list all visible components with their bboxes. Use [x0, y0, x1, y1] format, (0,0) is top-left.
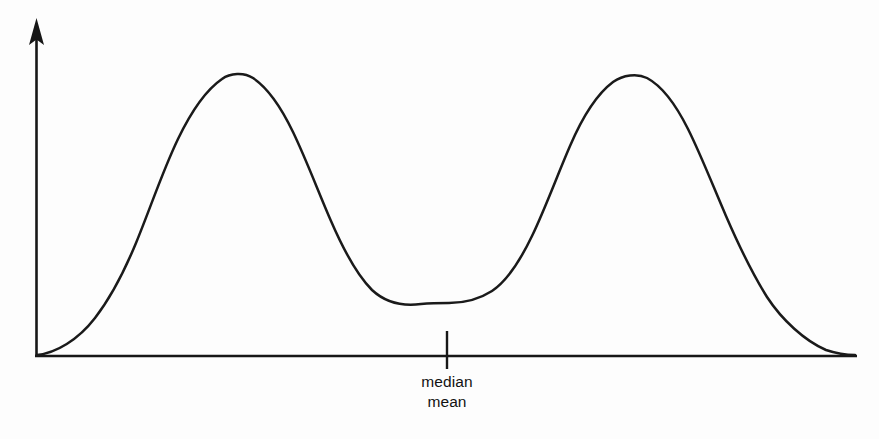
mean-label: mean: [347, 392, 547, 412]
axis-annotation-group: median mean: [347, 372, 547, 411]
bimodal-distribution-curve: [37, 74, 855, 355]
median-label: median: [347, 372, 547, 392]
distribution-figure: median mean: [0, 0, 879, 439]
